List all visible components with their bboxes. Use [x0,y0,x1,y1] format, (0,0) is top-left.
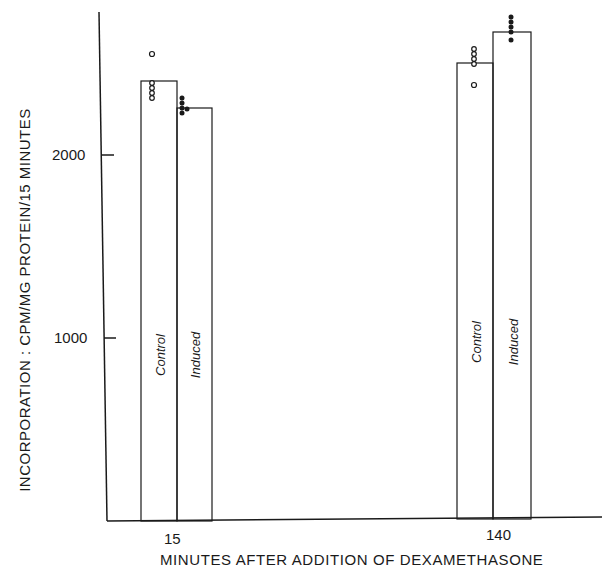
points-induced-15 [180,96,190,116]
bar-induced-15 [177,108,212,521]
points-control-140 [472,47,477,88]
bar-label-induced-140: Induced [506,319,521,365]
x-axis-label: MINUTES AFTER ADDITION OF DEXAMETHASONE [160,551,543,568]
y-axis-label: INCORPORATION : CPM/MG PROTEIN/15 MINUTE… [16,108,33,492]
y-tick-label-1000: 1000 [54,329,87,346]
bar-label-control-15: Control [153,334,168,376]
bar-induced-140 [493,32,531,519]
x-tick-label-140: 140 [486,526,511,543]
bar-label-control-140: Control [469,321,484,363]
y-tick-label-2000: 2000 [52,146,85,163]
chart-canvas [0,0,605,577]
points-control-15 [150,52,155,101]
bar-label-induced-15: Induced [188,332,203,378]
points-induced-140 [509,15,514,43]
bar-control-15 [141,81,177,521]
y-axis [99,12,107,521]
bar-control-140 [457,63,493,519]
x-tick-label-15: 15 [164,530,181,547]
